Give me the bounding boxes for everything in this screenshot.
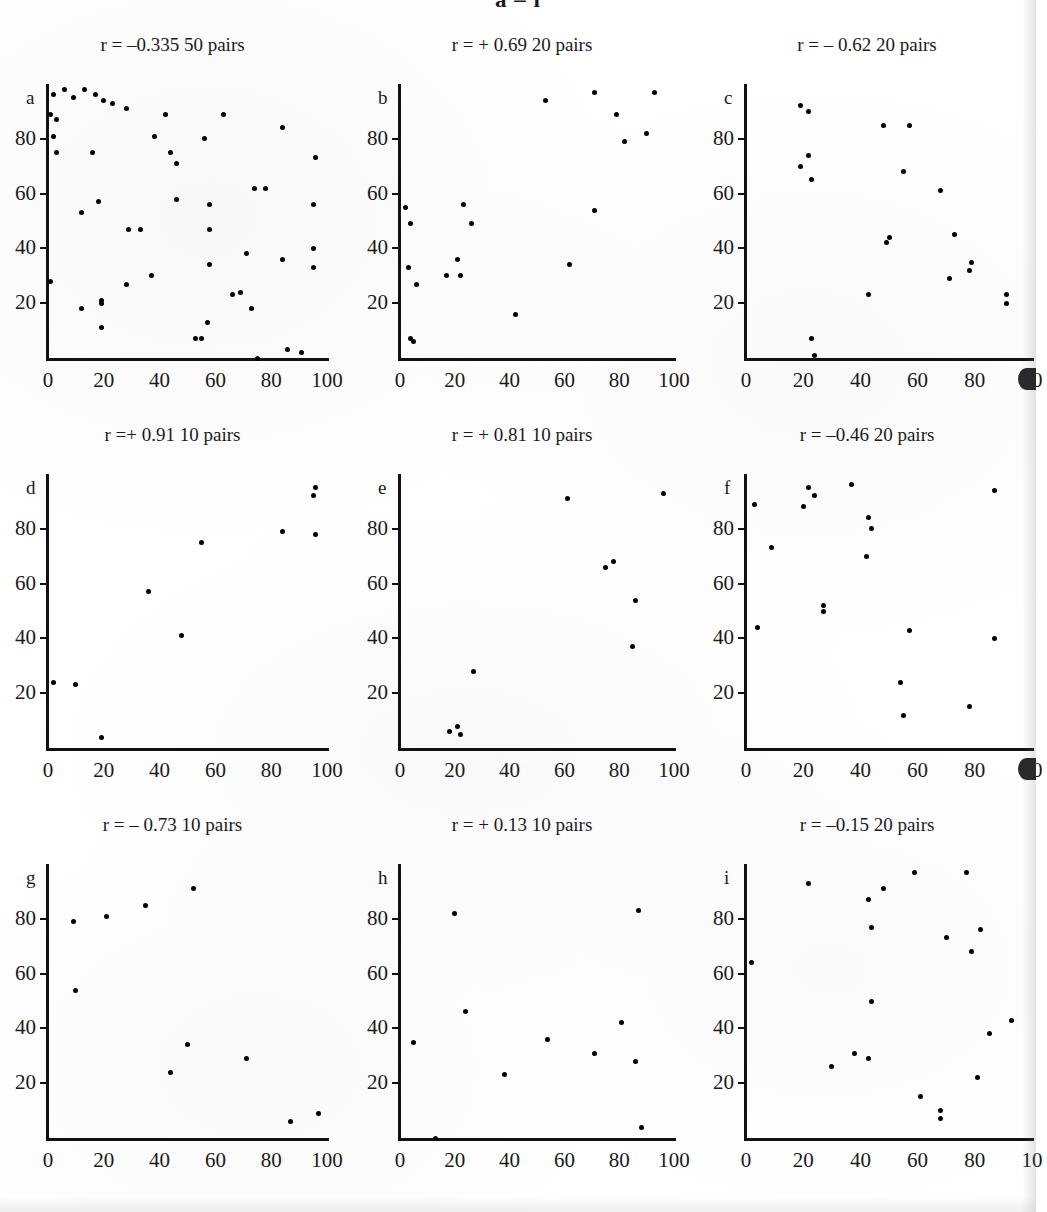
- y-tick: [392, 1027, 400, 1029]
- y-tick-label: 20: [0, 292, 36, 313]
- data-point: [411, 1040, 416, 1045]
- panel-d-caption: r =+ 0.91 10 pairs: [0, 424, 345, 446]
- panel-letter-c: c: [724, 88, 732, 107]
- data-point: [458, 273, 463, 278]
- data-point: [433, 1136, 438, 1141]
- data-point: [230, 292, 235, 297]
- y-tick-label: 40: [698, 1017, 734, 1038]
- panel-letter-h: h: [378, 868, 388, 887]
- y-tick: [738, 973, 746, 975]
- data-point: [414, 282, 419, 287]
- x-tick-label: 20: [430, 760, 480, 781]
- data-point: [1009, 1018, 1014, 1023]
- y-tick: [738, 692, 746, 694]
- data-point: [163, 112, 168, 117]
- y-tick: [40, 1082, 48, 1084]
- data-point: [502, 1072, 507, 1077]
- panel-letter-e: e: [378, 478, 386, 497]
- data-point: [96, 199, 101, 204]
- data-point: [938, 188, 943, 193]
- data-point: [630, 644, 635, 649]
- x-tick-label: 20: [778, 370, 828, 391]
- x-tick-label: 80: [950, 370, 1000, 391]
- data-point: [221, 112, 226, 117]
- y-tick-label: 60: [698, 183, 734, 204]
- data-point: [403, 205, 408, 210]
- x-tick-label: 40: [485, 370, 535, 391]
- data-point: [967, 268, 972, 273]
- y-tick: [40, 247, 48, 249]
- data-point: [79, 210, 84, 215]
- x-axis-line: [744, 1138, 1034, 1141]
- data-point: [821, 603, 826, 608]
- x-tick-label: 0: [23, 760, 73, 781]
- y-tick: [40, 692, 48, 694]
- data-point: [513, 312, 518, 317]
- data-point: [866, 515, 871, 520]
- panel-d-plot: d20406080020406080100: [0, 464, 345, 794]
- data-point: [603, 565, 608, 570]
- data-point: [798, 164, 803, 169]
- x-tick-label: 10: [1007, 1150, 1047, 1171]
- x-tick-label: 60: [190, 1150, 240, 1171]
- panel-c: r = – 0.62 20 pairs c2040608002040608010: [698, 34, 1036, 404]
- data-point: [611, 559, 616, 564]
- data-point: [801, 504, 806, 509]
- data-point: [185, 1042, 190, 1047]
- x-tick-label: 100: [649, 760, 699, 781]
- data-point: [812, 493, 817, 498]
- panel-c-plot: c2040608002040608010: [698, 74, 1036, 404]
- data-point: [798, 103, 803, 108]
- data-point: [62, 87, 67, 92]
- y-tick: [40, 193, 48, 195]
- y-tick-label: 40: [698, 237, 734, 258]
- y-tick-label: 20: [698, 292, 734, 313]
- data-point: [455, 724, 460, 729]
- x-axis-line: [744, 358, 1034, 361]
- data-point: [661, 491, 666, 496]
- data-point: [869, 526, 874, 531]
- data-point: [633, 1059, 638, 1064]
- data-point: [1004, 292, 1009, 297]
- x-tick-label: 0: [721, 370, 771, 391]
- x-tick-label: 60: [190, 370, 240, 391]
- y-tick: [40, 138, 48, 140]
- data-point: [907, 123, 912, 128]
- data-point: [565, 496, 570, 501]
- data-point: [93, 92, 98, 97]
- y-tick: [738, 302, 746, 304]
- data-point: [884, 240, 889, 245]
- data-point: [755, 625, 760, 630]
- x-tick-label: 100: [302, 1150, 352, 1171]
- data-point: [806, 109, 811, 114]
- x-tick-label: 40: [835, 370, 885, 391]
- data-point: [90, 150, 95, 155]
- data-point: [898, 680, 903, 685]
- data-point: [311, 246, 316, 251]
- x-tick-label: 80: [594, 1150, 644, 1171]
- x-tick-label: 40: [135, 1150, 185, 1171]
- data-point: [179, 633, 184, 638]
- y-tick: [738, 637, 746, 639]
- data-point: [249, 306, 254, 311]
- data-point: [174, 197, 179, 202]
- y-axis-line: [744, 474, 747, 748]
- data-point: [619, 1020, 624, 1025]
- x-tick-label: 100: [302, 760, 352, 781]
- y-tick: [392, 1082, 400, 1084]
- data-point: [749, 960, 754, 965]
- panel-letter-a: a: [26, 88, 34, 107]
- data-point: [881, 123, 886, 128]
- x-tick-label: 20: [430, 370, 480, 391]
- x-tick-label: 40: [835, 1150, 885, 1171]
- figure-title: a – i: [0, 0, 1036, 13]
- data-point: [202, 136, 207, 141]
- data-point: [207, 202, 212, 207]
- x-axis-line: [744, 748, 1034, 751]
- y-tick-label: 20: [0, 1072, 36, 1093]
- y-tick: [738, 528, 746, 530]
- panel-b: r = + 0.69 20 pairs b2040608002040608010…: [352, 34, 692, 404]
- y-tick-label: 60: [352, 183, 388, 204]
- data-point: [912, 870, 917, 875]
- data-point: [938, 1108, 943, 1113]
